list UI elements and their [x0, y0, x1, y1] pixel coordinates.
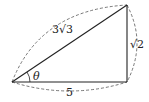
hypotenuse-label: 3√3 — [52, 23, 73, 36]
angle-label: θ — [33, 70, 40, 83]
hypotenuse-line — [12, 5, 127, 82]
triangle-diagram: 3√3 √2 5 θ — [0, 0, 149, 102]
bottom-side-label: 5 — [66, 86, 73, 99]
angle-arc — [27, 72, 30, 82]
vertical-side-label: √2 — [130, 38, 144, 51]
